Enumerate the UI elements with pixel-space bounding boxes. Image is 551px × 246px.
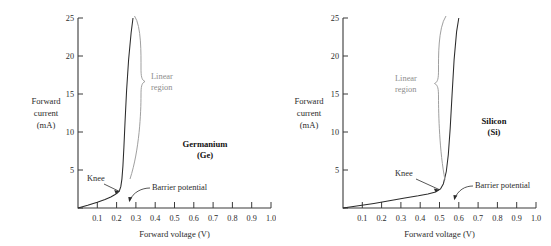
silicon-linear-region-label-line2: region (395, 85, 417, 94)
silicon-xtick-0: 0.1 (357, 214, 367, 223)
silicon-knee-label: Knee (395, 169, 413, 178)
germanium-ytick-25: 25 (66, 14, 74, 23)
silicon-yaxis-title-line2: current (297, 108, 322, 118)
germanium-xtick-4: 0.5 (169, 214, 179, 223)
silicon-linear-region-brace (435, 16, 447, 180)
germanium-xtick-2: 0.3 (131, 214, 141, 223)
silicon-xtick-9: 1.0 (531, 214, 541, 223)
silicon-barrier-potential-label: Barrier potential (475, 181, 531, 190)
germanium-xtick-1: 0.2 (111, 214, 121, 223)
silicon-ytick-20: 20 (331, 52, 339, 61)
diode-forward-characteristics-figure: 5 10 15 20 25 0.1 0.2 0.3 0.4 0.5 (0, 0, 551, 246)
silicon-ytick-5: 5 (335, 166, 339, 175)
germanium-material-name: Germanium (183, 139, 229, 149)
silicon-xtick-4: 0.5 (434, 214, 444, 223)
silicon-iv-curve (343, 18, 459, 208)
germanium-yaxis-title-line1: Forward (31, 96, 61, 106)
silicon-yaxis-title-line3: (mA) (300, 120, 319, 130)
germanium-knee-label: Knee (87, 174, 105, 183)
germanium-xtick-0: 0.1 (92, 214, 102, 223)
germanium-linear-region-label-line1: Linear (151, 72, 173, 81)
silicon-ytick-25: 25 (331, 14, 339, 23)
silicon-xaxis-title: Forward voltage (V) (404, 229, 475, 239)
germanium-knee-leader (104, 184, 120, 192)
silicon-knee-leader (416, 179, 439, 190)
germanium-ytick-15: 15 (66, 90, 74, 99)
germanium-xtick-6: 0.7 (208, 214, 218, 223)
germanium-linear-region-label-line2: region (151, 83, 173, 92)
silicon-xtick-8: 0.9 (512, 214, 522, 223)
silicon-x-ticks (362, 202, 536, 208)
germanium-xtick-8: 0.9 (247, 214, 257, 223)
germanium-barrier-potential-arrowhead (128, 197, 132, 202)
germanium-material-symbol: (Ge) (197, 150, 213, 160)
germanium-xtick-3: 0.4 (150, 214, 160, 223)
silicon-material-name: Silicon (482, 116, 507, 126)
germanium-chart-svg: 5 10 15 20 25 0.1 0.2 0.3 0.4 0.5 (0, 0, 276, 246)
germanium-x-ticks (97, 202, 271, 208)
silicon-y-ticks (343, 18, 348, 208)
silicon-ytick-10: 10 (331, 128, 339, 137)
germanium-xaxis-title: Forward voltage (V) (139, 229, 210, 239)
germanium-yaxis-title-line3: (mA) (37, 120, 56, 130)
silicon-xtick-6: 0.7 (473, 214, 483, 223)
silicon-linear-region-label-line1: Linear (395, 74, 417, 83)
silicon-chart-svg: 5 10 15 20 25 0.1 0.2 0.3 0.4 0.5 (275, 0, 551, 246)
silicon-material-symbol: (Si) (488, 127, 501, 137)
germanium-ytick-20: 20 (66, 52, 74, 61)
silicon-barrier-potential-leader (455, 186, 474, 199)
silicon-xtick-5: 0.6 (454, 214, 464, 223)
germanium-barrier-potential-leader (130, 188, 151, 201)
silicon-xtick-3: 0.4 (415, 214, 425, 223)
germanium-ytick-5: 5 (70, 166, 74, 175)
germanium-axes (78, 18, 271, 208)
germanium-chart-panel: 5 10 15 20 25 0.1 0.2 0.3 0.4 0.5 (0, 0, 276, 246)
germanium-y-ticks (78, 18, 83, 208)
silicon-yaxis-title-line1: Forward (294, 96, 324, 106)
silicon-ytick-15: 15 (331, 90, 339, 99)
silicon-xtick-1: 0.2 (376, 214, 386, 223)
germanium-ytick-10: 10 (66, 128, 74, 137)
germanium-yaxis-title-line2: current (34, 108, 59, 118)
germanium-linear-region-brace (130, 16, 145, 179)
germanium-xtick-7: 0.8 (227, 214, 237, 223)
silicon-barrier-potential-arrowhead (453, 195, 457, 200)
silicon-xtick-7: 0.8 (492, 214, 502, 223)
silicon-xtick-2: 0.3 (396, 214, 406, 223)
silicon-chart-panel: 5 10 15 20 25 0.1 0.2 0.3 0.4 0.5 (275, 0, 551, 246)
germanium-xtick-5: 0.6 (189, 214, 199, 223)
germanium-barrier-potential-label: Barrier potential (152, 183, 208, 192)
